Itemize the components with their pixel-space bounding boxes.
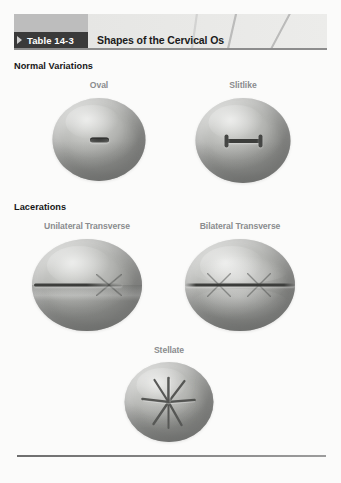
bottom-horizontal-rule	[17, 455, 326, 457]
os-bilateral-lower-lip	[192, 289, 289, 320]
figure-bilateral-transverse-cervix	[185, 239, 295, 331]
table-number-tag: Table 14-3	[14, 32, 88, 48]
os-oval-slit	[90, 137, 109, 142]
figure-unilateral-transverse-cervix	[32, 239, 142, 331]
os-slit-right-flare	[258, 134, 262, 147]
page-title: Shapes of the Cervical Os	[97, 34, 224, 46]
os-bilateral-right-notch	[247, 273, 271, 297]
os-unilateral-wedge	[96, 274, 122, 296]
os-unilateral-lip	[32, 285, 142, 301]
figure-label-unilateral-transverse: Unilateral Transverse	[44, 221, 130, 231]
os-bilateral-left-notch	[207, 273, 231, 297]
figure-stellate-cervix	[125, 362, 214, 442]
os-slit-bar	[226, 139, 260, 143]
table-page: Table 14-3 Shapes of the Cervical Os Nor…	[0, 0, 341, 483]
section-heading-normal-variations: Normal Variations	[14, 61, 93, 71]
figure-label-bilateral-transverse: Bilateral Transverse	[200, 221, 281, 231]
tag-arrow-icon	[17, 36, 22, 44]
table-number-label: Table 14-3	[27, 35, 74, 46]
os-slit-left-flare	[224, 134, 228, 147]
figure-label-oval: Oval	[90, 80, 108, 90]
section-heading-lacerations: Lacerations	[14, 202, 66, 212]
table-title-band: Shapes of the Cervical Os	[88, 32, 327, 48]
os-bilateral-upper-lip	[192, 256, 289, 284]
os-unilateral-cleft	[34, 284, 122, 287]
figure-oval-cervix	[53, 98, 146, 181]
os-bilateral-cleft	[185, 284, 295, 287]
figure-label-stellate: Stellate	[154, 345, 184, 355]
os-stellate-clefts-icon	[125, 362, 214, 442]
figure-label-slitlike: Slitlike	[229, 80, 256, 90]
table-title-bar: Table 14-3 Shapes of the Cervical Os	[14, 32, 327, 48]
figure-slitlike-cervix	[196, 98, 291, 183]
